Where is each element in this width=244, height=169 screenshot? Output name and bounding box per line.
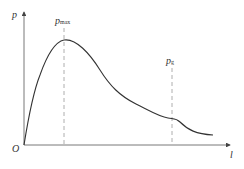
pg-subscript: g [171,59,174,65]
chart: p O l pmax pg [0,0,244,169]
y-axis-label: p [12,10,17,20]
pmax-subscript: max [60,19,70,25]
origin-label: O [12,144,19,154]
pg-label: pg [166,56,174,66]
chart-canvas [0,0,244,169]
x-axis-label: l [230,150,233,160]
p-curve [24,40,213,145]
pmax-label: pmax [55,16,70,26]
